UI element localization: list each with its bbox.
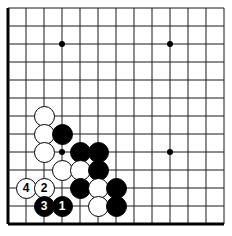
move-1-black-stone: 1 bbox=[52, 196, 73, 217]
stone-move-number: 2 bbox=[41, 182, 48, 194]
stone-move-number: 4 bbox=[23, 182, 30, 194]
stone-move-number: 1 bbox=[59, 200, 66, 212]
white-stone-c2-r8 bbox=[34, 142, 55, 163]
stone-layer: 4231 bbox=[0, 0, 232, 236]
go-board-diagram: 4231 bbox=[0, 0, 232, 236]
stone-move-number: 3 bbox=[41, 200, 48, 212]
black-stone-c6-r11 bbox=[106, 196, 127, 217]
black-stone-c3-r7 bbox=[52, 124, 73, 145]
